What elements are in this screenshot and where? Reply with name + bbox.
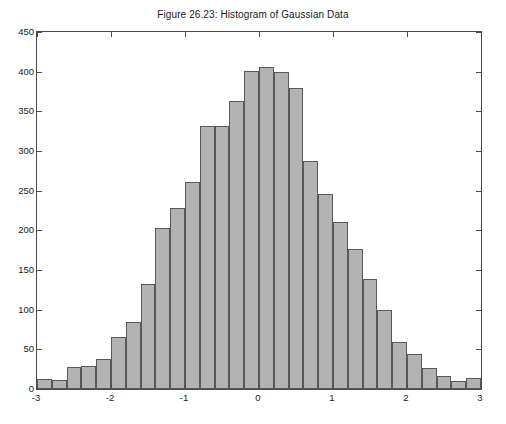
histogram-bar [259,67,274,389]
histogram-bar [185,182,200,389]
x-axis-tick-label: 3 [465,392,495,403]
x-axis-tick-mark [333,384,334,389]
histogram-bar [244,71,259,389]
histogram-bar [437,376,452,389]
histogram-bar [451,381,466,389]
histogram-bar [52,380,67,389]
y-axis-tick-label: 150 [4,264,34,275]
figure-container: Figure 26.23: Histogram of Gaussian Data… [0,0,506,424]
y-axis-tick-mark-right [476,230,481,231]
y-axis-tick-label: 350 [4,105,34,116]
x-axis-tick-mark [407,384,408,389]
y-axis-tick-mark [37,151,42,152]
y-axis-tick-label: 200 [4,224,34,235]
y-axis-tick-mark-right [476,349,481,350]
x-axis-tick-mark-top [259,32,260,37]
histogram-bar [229,101,244,389]
x-axis-tick-label: -3 [21,392,51,403]
y-axis-tick-mark-right [476,191,481,192]
x-axis-tick-mark-top [185,32,186,37]
y-axis-tick-mark [37,191,42,192]
x-axis-tick-label: 0 [243,392,273,403]
x-axis-tick-label: 1 [317,392,347,403]
y-axis-tick-mark [37,111,42,112]
y-axis-tick-mark-right [476,111,481,112]
x-axis-tick-mark-top [37,32,38,37]
bars-layer [37,32,481,389]
y-axis-tick-label: 400 [4,65,34,76]
histogram-bar [274,72,289,389]
histogram-bar [111,337,126,389]
histogram-bar [392,342,407,389]
histogram-bar [37,379,52,389]
x-axis: -3-2-10123 [36,390,482,410]
histogram-bar [407,354,422,389]
x-axis-tick-label: 2 [391,392,421,403]
x-axis-tick-mark [37,384,38,389]
histogram-bar [155,228,170,389]
y-axis-tick-mark-right [476,310,481,311]
histogram-bar [377,310,392,389]
histogram-bar [170,208,185,389]
y-axis-tick-mark [37,230,42,231]
y-axis-tick-mark [37,270,42,271]
x-axis-tick-mark-top [481,32,482,37]
x-axis-tick-mark-top [407,32,408,37]
y-axis-tick-mark [37,72,42,73]
x-axis-tick-label: -1 [169,392,199,403]
histogram-bar [318,194,333,389]
y-axis-tick-mark [37,310,42,311]
histogram-bar [303,161,318,389]
histogram-bar [96,359,111,389]
y-axis-tick-mark-right [476,270,481,271]
y-axis: 050100150200250300350400450 [0,31,34,388]
y-axis-tick-mark [37,349,42,350]
y-axis-tick-label: 50 [4,343,34,354]
histogram-bar [466,378,481,389]
histogram-bar [289,88,304,389]
x-axis-tick-mark [185,384,186,389]
y-axis-tick-mark-right [476,151,481,152]
histogram-bar [141,284,156,390]
y-axis-tick-label: 100 [4,303,34,314]
histogram-bar [126,322,141,389]
histogram-bar [81,366,96,389]
chart-title: Figure 26.23: Histogram of Gaussian Data [0,9,506,20]
histogram-bar [215,126,230,389]
x-axis-tick-label: -2 [95,392,125,403]
histogram-bar [200,126,215,389]
x-axis-tick-mark-top [333,32,334,37]
plot-area [36,31,482,390]
histogram-bar [363,279,378,389]
y-axis-tick-mark-right [476,72,481,73]
histogram-bar [422,368,437,389]
x-axis-tick-mark-top [111,32,112,37]
y-axis-tick-label: 300 [4,145,34,156]
y-axis-tick-label: 450 [4,26,34,37]
y-axis-tick-label: 250 [4,184,34,195]
histogram-bar [348,249,363,389]
x-axis-tick-mark [111,384,112,389]
histogram-bar [333,222,348,389]
x-axis-tick-mark [259,384,260,389]
x-axis-tick-mark [481,384,482,389]
histogram-bar [67,367,82,389]
